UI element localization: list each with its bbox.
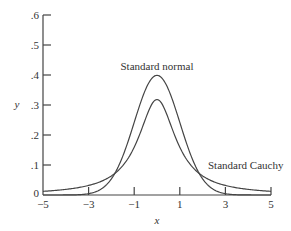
- y-tick-labels: .6 .5 .4 .3 .2 .1 0: [31, 9, 40, 199]
- x-tick-label: −5: [37, 198, 49, 210]
- standard-normal-label: Standard normal: [120, 60, 193, 72]
- standard-cauchy-label: Standard Cauchy: [208, 159, 284, 171]
- x-tick-label: 1: [177, 198, 183, 210]
- x-tick-label: −1: [128, 198, 140, 210]
- x-tick-label: 3: [223, 198, 229, 210]
- standard-normal-curve: [43, 75, 271, 195]
- x-tick-label: −3: [83, 198, 95, 210]
- y-tick-label: .6: [31, 9, 40, 21]
- y-axis: [43, 15, 51, 195]
- y-tick-label: .5: [31, 39, 40, 51]
- x-tick-label: 5: [268, 198, 274, 210]
- chart-canvas: .6 .5 .4 .3 .2 .1 0 −5 −3 −1 1 3 5 x y S…: [0, 0, 291, 231]
- x-axis-label: x: [154, 214, 160, 226]
- standard-cauchy-curve: [43, 100, 271, 192]
- y-tick-label: .2: [31, 129, 39, 141]
- y-axis-label: y: [14, 98, 20, 110]
- y-tick-label: .4: [31, 69, 40, 81]
- y-tick-label: .1: [31, 159, 39, 171]
- x-tick-labels: −5 −3 −1 1 3 5: [37, 198, 274, 210]
- y-tick-label: .3: [31, 99, 40, 111]
